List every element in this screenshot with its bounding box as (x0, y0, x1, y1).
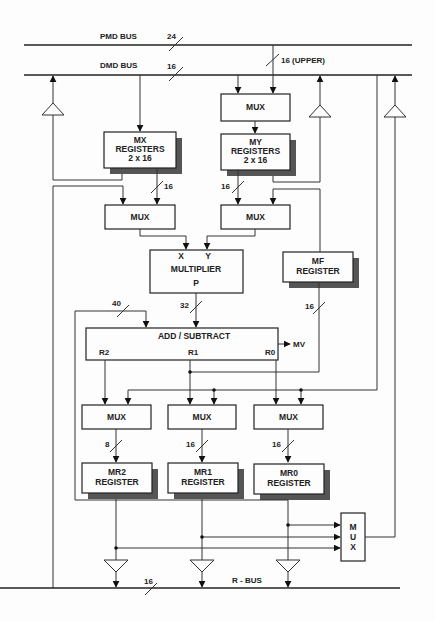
junction-dot (200, 535, 204, 539)
dmd-bus-label: DMD BUS (100, 61, 138, 70)
mf-to-mux-x (53, 186, 123, 204)
out-mux-l2: U (350, 532, 356, 542)
mr1-rbus-driver-icon (190, 560, 214, 572)
mf-out-width-label: 16 (305, 302, 314, 311)
mux-x-label: MUX (131, 212, 150, 222)
dmd-width-label: 16 (167, 62, 176, 71)
pmd-bus-label: PMD BUS (100, 32, 138, 41)
my-label-3: 2 x 16 (244, 155, 268, 165)
top-mux-label: MUX (246, 102, 265, 112)
mult-x-label: X (178, 251, 184, 261)
junction-dot (299, 388, 303, 392)
pmd-width-label: 24 (167, 32, 176, 41)
product-width-label: 32 (180, 301, 189, 310)
out-mux-l1: M (349, 522, 356, 532)
multiplier-accumulator-block-diagram: PMD BUS 24 DMD BUS 16 16 (UPPER) MUX MX … (0, 0, 435, 621)
r1-label: R1 (188, 348, 199, 357)
mx-dmd-driver-icon (42, 103, 64, 115)
mux-y-to-mult (207, 229, 255, 249)
r0-label: R0 (265, 348, 276, 357)
junction-dot (114, 546, 118, 550)
mx-feedback-line (53, 174, 122, 180)
out-mux-dmd-driver-icon (384, 105, 406, 117)
mr0-label-1: MR0 (280, 468, 298, 478)
mr2-width-label: 8 (105, 440, 110, 449)
mf-label-1: MF (312, 256, 324, 266)
upper-label: 16 (UPPER) (281, 56, 325, 65)
mf-label-2: REGISTER (296, 266, 339, 276)
mr0-rbus-driver-icon (276, 560, 300, 572)
mr1-label-2: REGISTER (181, 477, 224, 487)
dmd-to-mux-r2 (128, 390, 377, 404)
mux-r0-label: MUX (279, 412, 298, 422)
my-feedback-line (273, 176, 320, 182)
mf-to-mux-y (273, 189, 320, 204)
junction-dot (188, 370, 192, 374)
my-width-label: 16 (221, 182, 230, 191)
mx-label-3: 2 x 16 (128, 153, 152, 163)
rbus-label: R - BUS (232, 576, 262, 585)
add-subtract-label: ADD / SUBTRACT (158, 331, 231, 341)
junction-dot (286, 523, 290, 527)
mux-r2-label: MUX (107, 412, 126, 422)
mv-label: MV (293, 340, 306, 349)
r2-label: R2 (99, 348, 110, 357)
mux-r1-label: MUX (193, 412, 212, 422)
mux-x-to-mult (140, 229, 186, 249)
mr1-label-1: MR1 (194, 467, 212, 477)
junction-dot (212, 388, 216, 392)
mr2-rbus-driver-icon (104, 560, 128, 572)
out-mux-to-dmd (365, 530, 395, 537)
mult-p-label: P (193, 278, 199, 288)
mr1-width-label: 16 (186, 440, 195, 449)
mux-y-label: MUX (246, 212, 265, 222)
feedback-width-label: 40 (112, 299, 121, 308)
mult-y-label: Y (205, 251, 211, 261)
mx-width-label: 16 (164, 182, 173, 191)
rbus-width-label: 16 (144, 577, 153, 586)
mr2-label-2: REGISTER (95, 477, 138, 487)
mr0-width-label: 16 (272, 440, 281, 449)
multiplier-label: MULTIPLIER (171, 264, 221, 274)
mr0-label-2: REGISTER (267, 478, 310, 488)
mr2-label-1: MR2 (108, 467, 126, 477)
out-mux-l3: X (350, 542, 356, 552)
my-dmd-driver-icon (309, 105, 331, 117)
